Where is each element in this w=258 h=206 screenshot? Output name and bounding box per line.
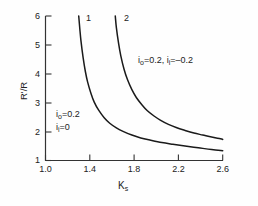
y-tick-label-2: 2 xyxy=(26,127,40,137)
data-curve-1 xyxy=(79,16,223,151)
x-tick-label-1-8: 1.8 xyxy=(121,164,147,174)
annot-curve-1-l2-rest: =0 xyxy=(60,122,70,132)
curve-label-1: 1 xyxy=(86,13,91,23)
annot-curve-1-l1-rest: =0.2 xyxy=(62,109,80,119)
annot-curve-1-line-2: ii=0 xyxy=(56,121,80,134)
annot-curve-1-l1-subscript: o xyxy=(58,113,62,120)
chart-figure: 6 5 4 3 2 1 1.0 1.4 1.8 2.2 2.6 R'/R Ks … xyxy=(0,0,258,206)
y-tick-marks xyxy=(46,16,52,161)
x-tick-label-2-6: 2.6 xyxy=(210,164,236,174)
annot-curve-1-l2-subscript: i xyxy=(58,126,60,133)
annot-curve-1: io=0.2 ii=0 xyxy=(56,108,80,134)
y-tick-label-5: 5 xyxy=(26,40,40,50)
annot-curve-2-p1-subscript: o xyxy=(140,59,144,66)
y-axis-title: R'/R xyxy=(18,82,29,100)
annot-curve-2: io=0.2, ii=–0.2 xyxy=(138,54,193,67)
x-tick-label-1-0: 1.0 xyxy=(33,164,59,174)
y-tick-label-6: 6 xyxy=(26,11,40,21)
data-curve-2 xyxy=(115,16,222,139)
x-tick-label-2-2: 2.2 xyxy=(165,164,191,174)
x-tick-label-1-4: 1.4 xyxy=(77,164,103,174)
annot-curve-1-line-1: io=0.2 xyxy=(56,108,80,121)
annot-curve-2-p1-rest: =0.2, xyxy=(144,55,167,65)
curve-label-2: 2 xyxy=(124,13,129,23)
x-tick-marks xyxy=(46,155,223,161)
annot-curve-2-p2-rest: =–0.2 xyxy=(170,55,193,65)
y-tick-label-4: 4 xyxy=(26,69,40,79)
x-axis-title-subscript: s xyxy=(125,185,129,192)
x-axis-title: Ks xyxy=(118,180,128,191)
x-axis-title-base: K xyxy=(118,180,125,191)
